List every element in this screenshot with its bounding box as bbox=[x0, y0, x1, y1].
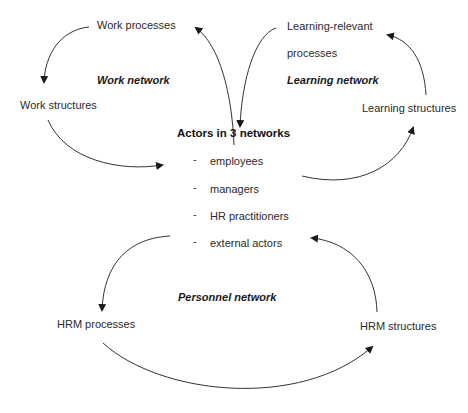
learning-network-label: Learning network bbox=[287, 74, 379, 86]
arrow-work-structures-to-actors bbox=[48, 120, 162, 167]
arrow-actors-to-learning-structures bbox=[302, 128, 413, 180]
learning-structures-label: Learning structures bbox=[362, 102, 456, 114]
learning-processes-label-line2: processes bbox=[287, 47, 337, 59]
arrow-learning-processes-to-actors bbox=[240, 28, 276, 126]
work-structures-label: Work structures bbox=[20, 99, 97, 111]
actor-external-actors: external actors bbox=[210, 237, 282, 249]
hrm-structures-label: HRM structures bbox=[360, 320, 436, 332]
actor-managers: managers bbox=[210, 183, 259, 195]
hrm-processes-label: HRM processes bbox=[57, 318, 135, 330]
learning-processes-label-line1: Learning-relevant bbox=[287, 20, 373, 32]
actor-employees: employees bbox=[210, 155, 263, 167]
arrow-layer bbox=[0, 0, 468, 413]
arrow-actors-to-hrm-processes bbox=[102, 236, 170, 310]
work-processes-label: Work processes bbox=[97, 19, 176, 31]
arrow-work-processes-to-structures bbox=[44, 27, 89, 82]
bullet-dash: - bbox=[193, 181, 197, 193]
arrow-hrm-structures-to-actors bbox=[312, 238, 377, 312]
bullet-dash: - bbox=[193, 208, 197, 220]
bullet-dash: - bbox=[193, 235, 197, 247]
arrow-hrm-processes-to-structures bbox=[103, 343, 372, 388]
arrow-learning-structures-to-processes bbox=[388, 35, 426, 95]
actor-hr-practitioners: HR practitioners bbox=[210, 210, 289, 222]
work-network-label: Work network bbox=[97, 74, 170, 86]
bullet-dash: - bbox=[193, 153, 197, 165]
personnel-network-label: Personnel network bbox=[178, 291, 276, 303]
actors-title: Actors in 3 networks bbox=[177, 127, 290, 139]
